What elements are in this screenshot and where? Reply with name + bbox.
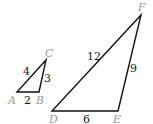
side-label-bc: 3 bbox=[44, 72, 51, 85]
vertex-label-d: D bbox=[48, 113, 58, 124]
vertex-label-e: E bbox=[112, 113, 121, 124]
side-label-ac: 4 bbox=[23, 65, 30, 78]
diagram-canvas: A B C 4 3 2 D E F 12 9 6 bbox=[0, 0, 153, 124]
triangle-abc bbox=[17, 60, 46, 92]
vertex-label-f: F bbox=[137, 1, 146, 14]
side-label-df: 12 bbox=[87, 50, 101, 63]
side-label-ab: 2 bbox=[24, 94, 31, 107]
vertex-label-b: B bbox=[35, 94, 44, 107]
vertex-label-c: C bbox=[45, 47, 54, 60]
side-label-de: 6 bbox=[83, 113, 90, 124]
similar-triangles-diagram: A B C 4 3 2 D E F 12 9 6 bbox=[0, 0, 153, 124]
triangle-def bbox=[52, 15, 141, 111]
side-label-ef: 9 bbox=[130, 62, 137, 75]
vertex-label-a: A bbox=[7, 94, 16, 107]
